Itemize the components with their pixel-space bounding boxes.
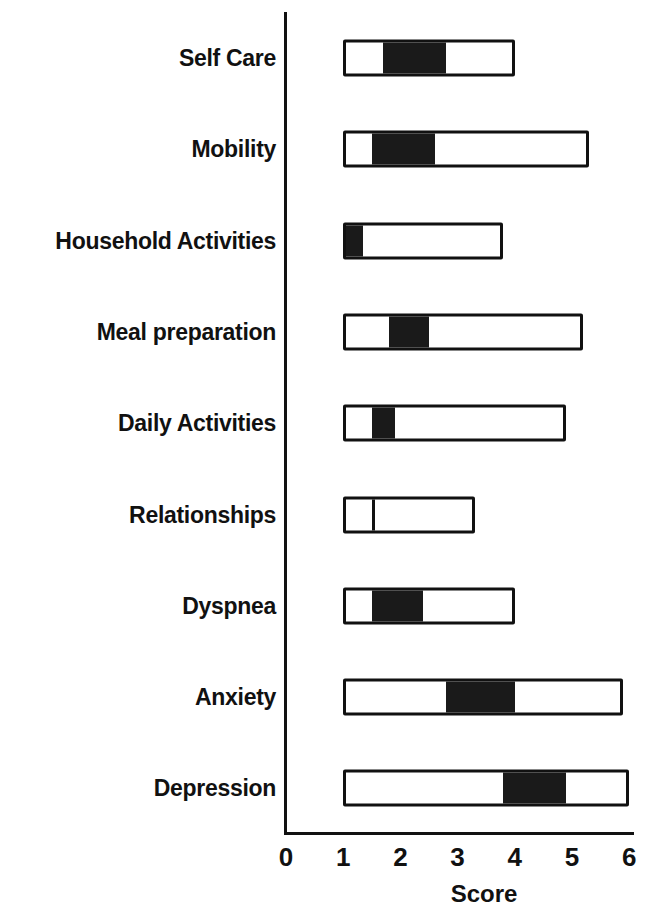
range-box (343, 587, 515, 624)
category-label: Dyspnea (182, 592, 276, 619)
x-tick-label: 0 (279, 842, 293, 873)
central-range-fill (383, 43, 446, 74)
median-line (372, 499, 375, 530)
range-box (343, 679, 623, 716)
range-box (343, 405, 566, 442)
central-range-fill (346, 225, 363, 256)
range-box (343, 313, 583, 350)
x-axis-label: Score (451, 880, 518, 908)
box-chart: Self CareMobilityHousehold ActivitiesMea… (0, 0, 664, 921)
central-range-fill (446, 682, 515, 713)
central-range-fill (372, 408, 395, 439)
category-label: Meal preparation (97, 318, 276, 345)
category-label: Daily Activities (118, 410, 276, 437)
range-box (343, 770, 629, 807)
x-tick-label: 6 (622, 842, 636, 873)
x-tick-label: 5 (565, 842, 579, 873)
category-label: Household Activities (55, 227, 276, 254)
central-range-fill (503, 773, 566, 804)
x-tick-label: 4 (508, 842, 522, 873)
range-box (343, 496, 475, 533)
range-box (343, 222, 503, 259)
x-axis-line (284, 832, 634, 835)
range-box (343, 40, 515, 77)
y-axis-line (284, 12, 287, 834)
x-tick-label: 2 (393, 842, 407, 873)
x-tick-label: 1 (336, 842, 350, 873)
category-label: Anxiety (195, 684, 276, 711)
category-label: Depression (154, 775, 276, 802)
range-box (343, 131, 589, 168)
central-range-fill (372, 134, 435, 165)
x-tick-label: 3 (450, 842, 464, 873)
category-label: Self Care (179, 45, 276, 72)
central-range-fill (389, 316, 429, 347)
central-range-fill (372, 590, 423, 621)
category-label: Relationships (129, 501, 276, 528)
category-label: Mobility (192, 136, 276, 163)
